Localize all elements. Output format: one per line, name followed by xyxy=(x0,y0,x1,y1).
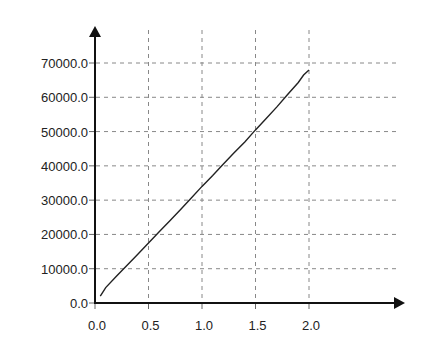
x-tick-label: 0.5 xyxy=(141,318,159,333)
axes xyxy=(89,26,405,309)
y-tick-labels: 0.010000.020000.030000.040000.050000.060… xyxy=(41,56,94,311)
data-series-line xyxy=(100,70,309,296)
x-tick-label: 0.0 xyxy=(88,318,106,333)
y-tick-label: 0.0 xyxy=(70,296,88,311)
y-tick-label: 40000.0 xyxy=(41,159,88,174)
x-tick-label: 2.0 xyxy=(302,318,320,333)
x-axis-arrow-icon xyxy=(394,297,405,309)
y-tick-label: 60000.0 xyxy=(41,90,88,105)
y-tick-label: 70000.0 xyxy=(41,56,88,71)
y-axis-arrow-icon xyxy=(89,26,101,37)
x-tick-label: 1.0 xyxy=(195,318,213,333)
x-tick-labels: 0.00.51.01.52.0 xyxy=(88,304,320,333)
grid-lines xyxy=(96,30,400,302)
line-chart: 0.010000.020000.030000.040000.050000.060… xyxy=(0,0,424,349)
x-tick-label: 1.5 xyxy=(248,318,266,333)
y-tick-label: 20000.0 xyxy=(41,227,88,242)
y-tick-label: 50000.0 xyxy=(41,125,88,140)
y-tick-label: 30000.0 xyxy=(41,193,88,208)
y-tick-label: 10000.0 xyxy=(41,262,88,277)
